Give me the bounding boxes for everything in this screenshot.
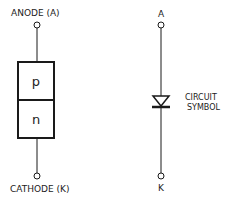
pn-junction-diagram: ANODE (A) p n CATHODE (K) [10,8,70,194]
symbol-anode-terminal-icon [158,22,164,28]
symbol-cathode-terminal-icon [158,173,164,179]
diode-circuit-symbol: A K CIRCUIT SYMBOL [152,9,221,193]
symbol-cathode-label: K [158,183,165,193]
anode-label: ANODE (A) [11,8,60,18]
cathode-terminal-icon [34,173,40,179]
p-region-label: p [32,74,40,89]
symbol-anode-label: A [158,9,165,19]
caption-line2: SYMBOL [187,103,221,112]
diode-triangle-icon [153,96,169,106]
anode-terminal-icon [34,22,40,28]
n-region-label: n [32,112,40,127]
diode-diagram: ANODE (A) p n CATHODE (K) A K CIRCUIT SY… [0,0,238,204]
cathode-label: CATHODE (K) [10,184,70,194]
caption-line1: CIRCUIT [185,93,217,102]
